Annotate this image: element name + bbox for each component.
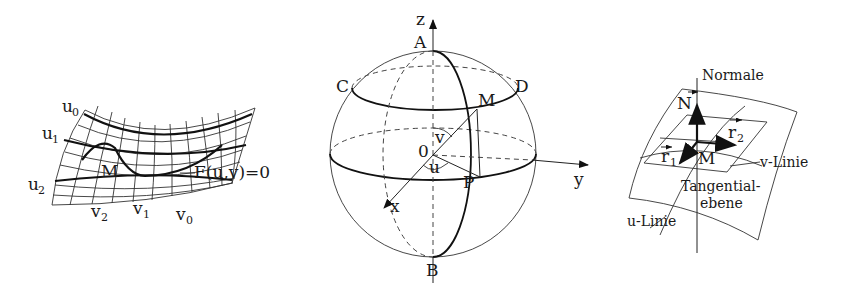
svg-text:0: 0 [186,214,193,227]
svg-text:0: 0 [72,106,79,119]
label-x: x [390,196,400,216]
diagram-canvas: u 0 u 1 u 2 v 2 v 1 v 0 M F(u,v)=0 [0,0,846,293]
svg-text:1: 1 [143,208,150,221]
label-tangentialebene-1: Tangential- [681,178,761,194]
r2-vector [697,142,735,145]
label-v-linie: v-Linie [759,154,808,170]
label-point-m: M [698,148,715,168]
label-r2: r [728,122,737,142]
svg-text:2: 2 [737,132,744,145]
label-v1: v [132,198,143,218]
label-v2: v [90,201,101,221]
svg-text:2: 2 [101,211,108,224]
label-angle-v: v [434,127,445,147]
label-a: A [413,32,427,52]
r1-vector [680,142,697,163]
svg-text:1: 1 [52,133,59,146]
label-m: M [478,90,495,110]
label-b: B [426,260,439,280]
label-curve-equation: F(u,v)=0 [194,162,270,182]
label-y: y [573,169,584,189]
label-origin: 0 [418,141,429,161]
label-d: D [515,76,529,96]
label-u-linie: u-Linie [627,213,676,229]
label-c: C [336,76,349,96]
label-tangentialebene-2: ebene [700,195,743,211]
label-v0: v [175,204,186,224]
label-z: z [416,9,425,29]
meridian [433,51,471,257]
svg-text:2: 2 [38,184,45,197]
label-n-vector: N [677,93,692,113]
label-normale: Normale [702,67,764,83]
svg-text:1: 1 [670,156,677,169]
label-point-m: M [101,161,118,181]
label-angle-u: u [429,157,440,177]
u0-curve [84,114,252,135]
label-p: P [463,172,474,192]
sphere-figure [330,20,588,283]
label-r1: r [661,146,670,166]
surface-grid-figure [52,106,255,205]
y-axis [532,160,588,165]
